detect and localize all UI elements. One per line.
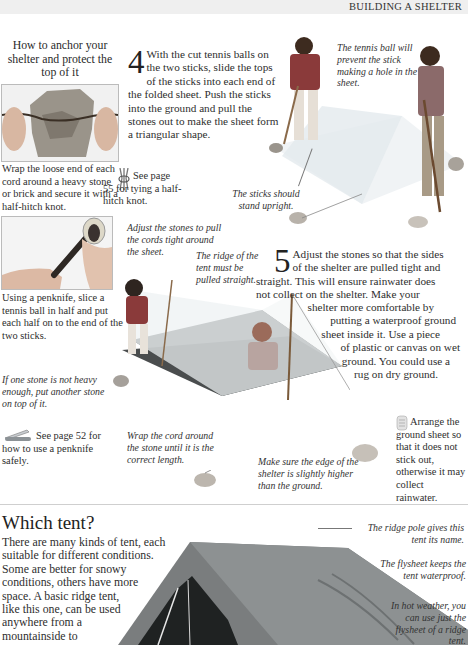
caption-penknife: Using a penknife, slice a tennis ball in…: [2, 292, 124, 342]
step-5-line: of the shelter are pulled tight and: [274, 261, 468, 274]
which-tent-title: Which tent?: [2, 512, 94, 534]
see-page-52: See page 52 for how to use a penknife sa…: [2, 430, 114, 468]
label-one-stone: If one stone is not heavy enough, put an…: [2, 374, 108, 409]
step-5-line: putting a waterproof ground: [274, 314, 464, 327]
step-5-continued: shelter more comfortable by putting a wa…: [274, 301, 464, 381]
label-tennis-ball: The tennis ball will prevent the stick m…: [337, 42, 417, 89]
step-5-line: of plastic or canvas on wet: [274, 341, 464, 354]
step-5-number: 5: [274, 249, 291, 273]
step-5-line: rug on dry ground.: [274, 368, 464, 381]
leader-line: [318, 528, 352, 529]
see-page-55: See page 55 for tying a half-hitch knot.: [103, 170, 183, 208]
step-5-line: not collect on the shelter. Make your: [256, 288, 468, 301]
step-5: 5 Adjust the stones so that the sides of…: [274, 248, 468, 302]
step-4-number: 4: [128, 49, 145, 75]
penknife-photo: [1, 216, 113, 290]
label-ground-sheet: Arrange the ground sheet so that it does…: [396, 416, 466, 504]
step-5-line: Adjust the stones so that the sides: [274, 248, 468, 261]
step-4-text: With the cut tennis balls on the two sti…: [128, 48, 278, 140]
label-wrap-cord: Wrap the cord around the stone until it …: [127, 430, 227, 465]
label-flysheet: The flysheet keeps the tent waterproof.: [366, 558, 466, 582]
step-5-line: straight. This will ensure rainwater doe…: [256, 275, 468, 288]
label-sticks-upright: The sticks should stand upright.: [226, 188, 306, 212]
stone-icon: [112, 374, 130, 388]
step-5-line: shelter more comfortable by: [274, 301, 464, 314]
stone-photo: [1, 84, 119, 162]
step-5-line: ground. You could use a: [274, 355, 464, 368]
anchor-heading: How to anchor your shelter and protect t…: [4, 39, 116, 80]
step-5-line: sheet inside it. Use a piece: [274, 328, 464, 341]
step-4: 4With the cut tennis balls on the two st…: [128, 48, 280, 142]
section-divider: [0, 504, 468, 505]
label-hot-weather: In hot weather, you can use just the fly…: [386, 600, 466, 645]
stone-image: [350, 440, 380, 464]
label-ridge-pole: The ridge pole gives this tent its name.: [352, 522, 464, 546]
running-head: BUILDING A SHELTER: [349, 1, 462, 12]
stone-with-cord: [193, 470, 217, 488]
